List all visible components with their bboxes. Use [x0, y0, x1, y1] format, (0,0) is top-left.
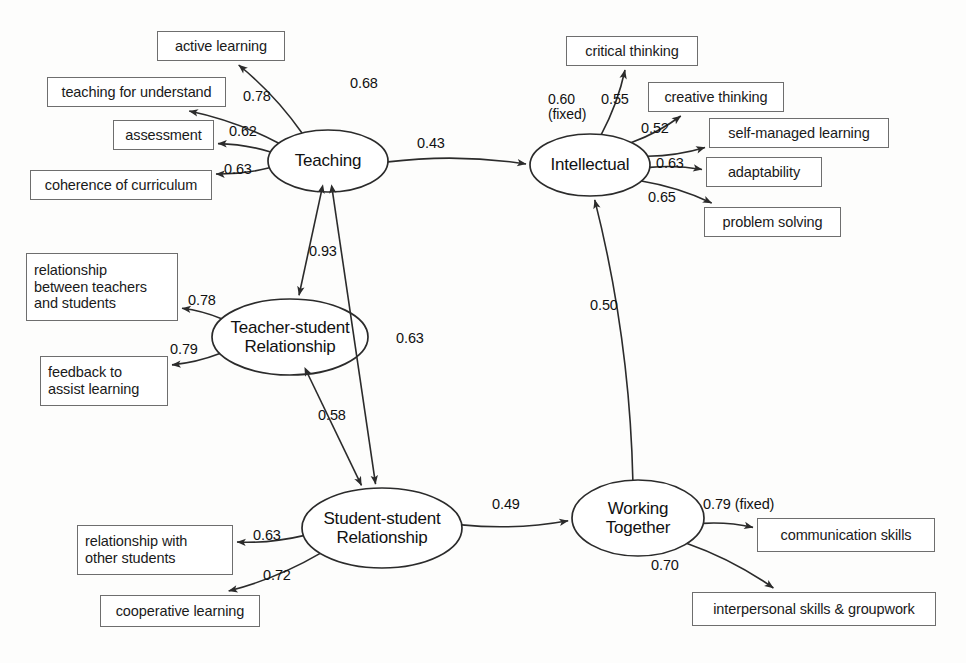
- coefficient-student-student-to-working-together: 0.49: [492, 497, 520, 513]
- observed-box-critical-thinking: critical thinking: [566, 36, 698, 66]
- observed-box-communication-skills: communication skills: [757, 518, 935, 552]
- structural-path-student_student_to_working: [462, 521, 568, 527]
- observed-box-active-learning: active learning: [157, 31, 285, 61]
- coefficient-teacher-student-feedback: 0.79: [170, 342, 198, 358]
- observed-box-creative-thinking: creative thinking: [648, 82, 784, 112]
- coefficient-intellectual-adaptability: 0.63: [656, 156, 684, 172]
- coefficient-teaching-student-student: 0.63: [396, 331, 424, 347]
- observed-box-relationship-teachers-students: relationshipbetween teachersand students: [26, 253, 178, 321]
- coefficient-intellectual-problem-solving: 0.65: [648, 190, 676, 206]
- coefficient-teaching-teacher-student: 0.93: [309, 244, 337, 260]
- observed-box-self-managed-learning: self-managed learning: [709, 118, 889, 148]
- sem-path-diagram: Teaching Intellectual Teacher-studentRel…: [0, 0, 966, 663]
- coefficient-working-together-interpersonal: 0.70: [651, 558, 679, 574]
- observed-box-adaptability: adaptability: [706, 157, 822, 187]
- structural-path-teaching_to_intellectual: [388, 158, 526, 164]
- coefficient-teaching-coherence: 0.63: [224, 162, 252, 178]
- observed-box-interpersonal-skills-groupwork: interpersonal skills & groupwork: [692, 592, 936, 626]
- observed-box-problem-solving: problem solving: [704, 207, 841, 237]
- latent-ellipse-working_together: [572, 480, 704, 556]
- coefficient-working-together-communication: 0.79 (fixed): [703, 497, 774, 513]
- coefficient-intellectual-critical-thinking: 0.60(fixed): [548, 92, 586, 123]
- latent-ellipse-teacher_student: [212, 299, 368, 375]
- observed-box-teaching-for-understand: teaching for understand: [47, 77, 226, 107]
- latent-ellipse-student_student: [302, 488, 462, 568]
- structural-path-working_to_intellectual: [595, 200, 633, 480]
- coefficient-intellectual-creative-thinking: 0.55: [601, 92, 629, 108]
- coefficient-teaching-to-intellectual: 0.43: [417, 136, 445, 152]
- coefficient-teaching-active-learning: 0.68: [350, 76, 378, 92]
- latent-ellipse-intellectual: [530, 134, 650, 196]
- observed-box-assessment: assessment: [113, 120, 214, 150]
- coefficient-teaching-understand: 0.78: [243, 89, 271, 105]
- coefficient-teacher-student-to-student-student: 0.58: [318, 408, 346, 424]
- observed-box-feedback-to-assist-learning: feedback toassist learning: [40, 356, 168, 406]
- coefficient-intellectual-self-managed: 0.52: [641, 121, 669, 137]
- latent-ellipse-teaching: [268, 130, 388, 192]
- measurement-path-wt_communication: [703, 523, 753, 527]
- measurement-path-ts_rel_teachers_students: [182, 308, 222, 319]
- measurement-path-teaching_assessment: [218, 144, 271, 152]
- coefficient-teaching-assessment: 0.62: [229, 124, 257, 140]
- observed-box-coherence-of-curriculum: coherence of curriculum: [30, 170, 212, 200]
- structural-path-teacher_student_student_student: [308, 374, 362, 485]
- coefficient-student-student-relationship-indicator: 0.63: [253, 528, 281, 544]
- observed-box-relationship-other-students: relationship withother students: [77, 525, 233, 575]
- coefficient-working-together-to-intellectual: 0.50: [590, 298, 618, 314]
- coefficient-student-student-cooperative: 0.72: [263, 568, 291, 584]
- observed-box-cooperative-learning: cooperative learning: [100, 595, 260, 627]
- coefficient-teacher-student-relationship-indicator: 0.78: [188, 293, 216, 309]
